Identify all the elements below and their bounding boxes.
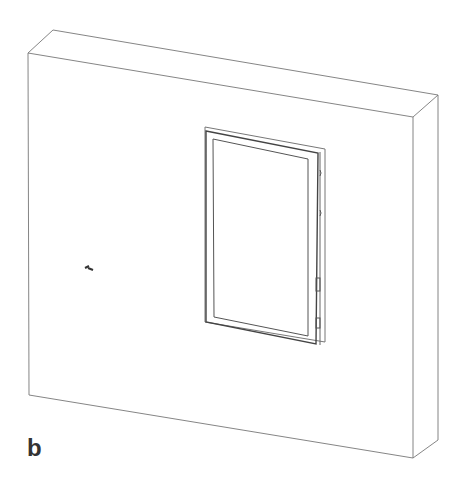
wall-top-face bbox=[28, 30, 438, 117]
figure-canvas: b bbox=[0, 0, 454, 499]
screw-icon bbox=[85, 266, 93, 270]
wall-drawing bbox=[0, 0, 454, 499]
panel-label: b bbox=[27, 434, 42, 462]
wall-front-face bbox=[28, 53, 413, 458]
window-frame bbox=[205, 127, 325, 345]
wall-side-face bbox=[413, 95, 438, 458]
wall-block bbox=[28, 30, 438, 458]
